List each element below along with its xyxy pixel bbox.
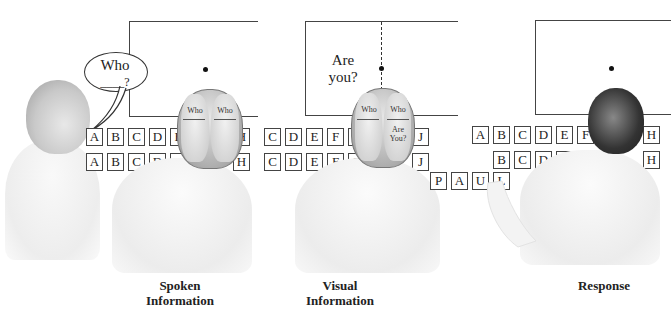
letter-key: D: [535, 126, 552, 144]
letter-key: C: [128, 128, 145, 146]
subject-body: [295, 158, 440, 273]
subject-body: [112, 158, 252, 273]
letter-key: A: [472, 126, 489, 144]
left-hemisphere: [355, 93, 382, 161]
letter-key: C: [514, 151, 531, 169]
brain-visual: Who Who Are You?: [351, 88, 415, 168]
letter-key: A: [86, 128, 103, 146]
letter-key: E: [306, 128, 323, 146]
caption-response: Response: [564, 278, 644, 293]
left-hemisphere-blank: [357, 119, 379, 120]
left-hemisphere-word: Who: [356, 105, 382, 114]
right-hemisphere-word: Who: [385, 105, 411, 114]
speaker-head: [26, 80, 90, 154]
letter-key: B: [107, 153, 124, 171]
letter-key: B: [493, 126, 510, 144]
fixation-dot: [609, 66, 614, 71]
right-hemisphere: [211, 94, 239, 162]
letter-key: B: [493, 151, 510, 169]
caption-visual: Visual Information: [295, 278, 385, 308]
letter-key: D: [285, 153, 302, 171]
right-hemisphere-word: Who: [212, 106, 238, 115]
screen-word: Are you?: [318, 52, 368, 86]
letter-key: C: [514, 126, 531, 144]
right-hemisphere-visual-word: Are You?: [385, 125, 411, 143]
spelled-letter: A: [451, 172, 468, 190]
letter-key: D: [285, 128, 302, 146]
speech-bubble-text: Who ____?: [84, 57, 146, 91]
letter-key: H: [643, 126, 660, 144]
spelled-letter: P: [430, 172, 447, 190]
left-hemisphere: [181, 94, 209, 162]
responder-head: [588, 88, 644, 154]
right-hemisphere-blank: [214, 119, 236, 120]
caption-spoken: Spoken Information: [135, 278, 225, 308]
letter-key: F: [327, 128, 344, 146]
responder-arm: [480, 175, 560, 255]
speech-bubble-tail: [90, 86, 130, 134]
letter-key: E: [556, 126, 573, 144]
brain-spoken: Who Who: [177, 89, 243, 169]
right-hemisphere-blank: [387, 119, 409, 120]
letter-key: D: [149, 128, 166, 146]
left-hemisphere-word: Who: [182, 106, 208, 115]
letter-key: B: [107, 128, 124, 146]
fixation-dot: [203, 67, 208, 72]
left-hemisphere-blank: [183, 119, 205, 120]
letter-key: C: [264, 128, 281, 146]
letter-key: A: [86, 153, 103, 171]
fixation-dot: [379, 66, 384, 71]
letter-key: C: [264, 153, 281, 171]
letter-key: H: [643, 151, 660, 169]
